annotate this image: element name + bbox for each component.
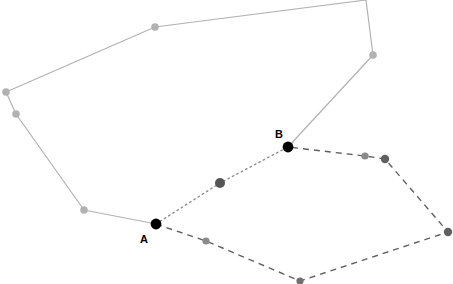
diagram-canvas: AB [0,0,453,284]
dark-gray-dashed-path [156,147,448,281]
label-b: B [275,128,283,140]
labels-layer: AB [140,128,283,245]
node-light-leftup[interactable] [2,88,10,96]
node-a[interactable] [151,219,162,230]
node-dash-upperright[interactable] [381,155,389,163]
node-dotted-mid[interactable] [215,178,225,188]
node-dash-lowleft[interactable] [202,237,209,244]
node-light-leftlow[interactable] [12,110,20,118]
nodes-layer [2,23,452,284]
node-dash-upper[interactable] [361,152,368,159]
node-dash-right[interactable] [444,228,452,236]
node-light-lower[interactable] [80,206,88,214]
label-a: A [140,233,148,245]
paths-layer [6,0,448,281]
graph-svg: AB [0,0,453,284]
node-light-right[interactable] [369,51,377,59]
node-b[interactable] [283,142,294,153]
node-light-top[interactable] [151,23,159,31]
light-gray-solid-path [6,0,373,224]
node-dash-bottom[interactable] [296,277,303,284]
